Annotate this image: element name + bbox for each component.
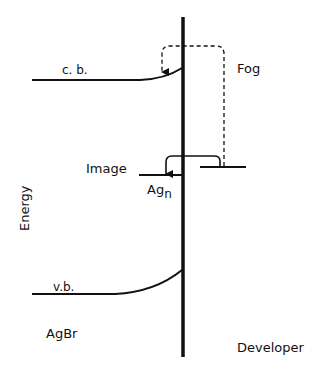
agbr-label: AgBr: [46, 326, 78, 341]
vb-label: v.b.: [53, 280, 74, 294]
image-label: Image: [86, 161, 127, 176]
developer-label: Developer: [237, 340, 305, 355]
fog-label: Fog: [237, 61, 260, 76]
ag-text: Ag: [147, 182, 164, 197]
energy-axis-label: Energy: [17, 185, 32, 231]
fog-dashed-arrow: [162, 46, 224, 166]
image-transfer-arrow: [166, 156, 220, 174]
ag-label: Agn: [147, 182, 172, 201]
conduction-band: [32, 68, 182, 80]
energy-band-diagram: c. b. v.b. Fog Image Agn Energy AgBr Dev…: [0, 0, 315, 372]
cb-label: c. b.: [62, 63, 88, 77]
ag-subscript: n: [164, 187, 172, 201]
